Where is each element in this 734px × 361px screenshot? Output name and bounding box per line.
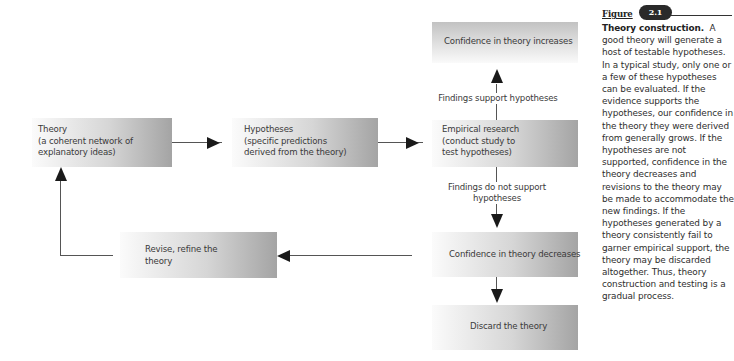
edge-label-not-support-1: Findings do not support xyxy=(427,182,567,193)
hypotheses-desc-1: (specific predictions xyxy=(244,136,347,148)
empirical-desc-1: (conduct study to xyxy=(442,136,519,148)
hypotheses-node: Hypotheses (specific predictions derived… xyxy=(232,118,378,167)
arrowhead-up-icon xyxy=(491,69,503,83)
caption-text: A good theory will generate a host of te… xyxy=(602,23,734,301)
discard-theory-text: Discard the theory xyxy=(470,321,547,333)
figure-number-badge: 2.1 xyxy=(639,5,672,20)
theory-desc-1: (a coherent network of xyxy=(38,136,133,148)
arrowhead-right-icon xyxy=(207,137,220,149)
discard-theory-node: Discard the theory xyxy=(432,305,578,350)
edge-label-not-support: Findings do not support hypotheses xyxy=(427,182,567,204)
arrowhead-left-icon xyxy=(277,250,290,262)
caption-body: Theory construction. A good theory will … xyxy=(602,22,734,303)
arrowhead-down-icon xyxy=(491,214,503,228)
figure-word: Figure xyxy=(602,8,633,20)
figure-header: Figure 2.1 xyxy=(602,0,734,22)
hypotheses-desc-2: derived from the theory) xyxy=(244,147,347,159)
confidence-decreases-text: Confidence in theory decreases xyxy=(449,249,580,261)
empirical-title: Empirical research xyxy=(442,124,519,136)
arrowhead-up-icon xyxy=(55,167,67,181)
theory-title: Theory xyxy=(38,124,133,136)
edge-revise-theory-horizontal xyxy=(60,255,113,256)
figure-caption: Figure 2.1 Theory construction. A good t… xyxy=(602,0,734,303)
confidence-increases-text: Confidence in theory increases xyxy=(444,36,573,48)
arrowhead-right-icon xyxy=(406,137,419,149)
confidence-increases-node: Confidence in theory increases xyxy=(432,22,578,63)
arrowhead-down-icon xyxy=(491,289,503,303)
figure-rule xyxy=(670,15,732,16)
edge-label-not-support-2: hypotheses xyxy=(427,193,567,204)
edge-decrease-revise xyxy=(288,255,412,256)
revise-line-2: theory xyxy=(145,256,218,268)
edge-revise-theory-vertical xyxy=(60,180,61,256)
hypotheses-title: Hypotheses xyxy=(244,124,347,136)
edge-label-support: Findings support hypotheses xyxy=(430,93,566,104)
empirical-desc-2: test hypotheses) xyxy=(442,147,519,159)
theory-node: Theory (a coherent network of explanator… xyxy=(32,118,172,167)
revise-theory-node: Revise, refine the theory xyxy=(120,232,277,278)
revise-line-1: Revise, refine the xyxy=(145,244,218,256)
theory-desc-2: explanatory ideas) xyxy=(38,147,133,159)
confidence-decreases-node: Confidence in theory decreases xyxy=(432,232,578,277)
empirical-research-node: Empirical research (conduct study to tes… xyxy=(432,120,578,167)
caption-title: Theory construction. xyxy=(602,23,704,33)
